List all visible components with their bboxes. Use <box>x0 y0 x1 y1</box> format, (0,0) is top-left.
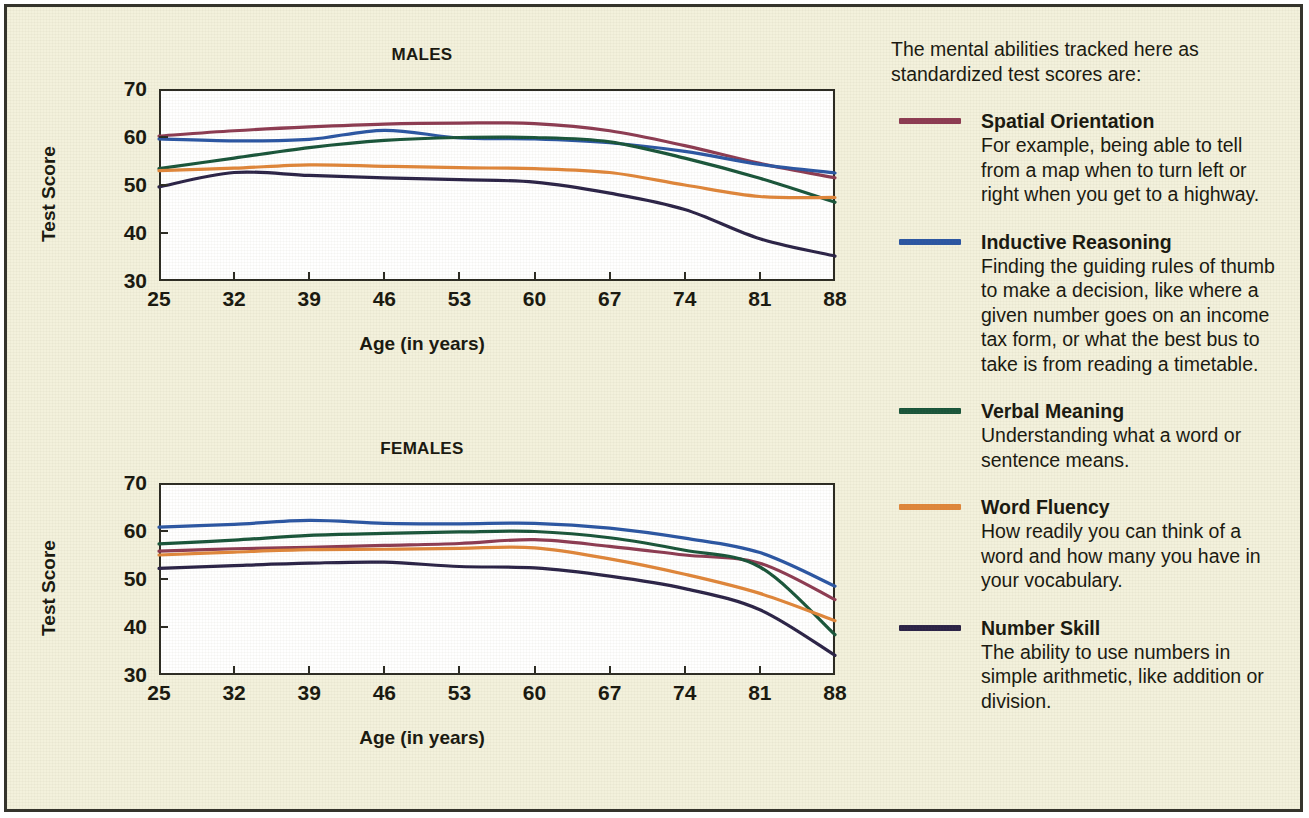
legend-entry-name: Spatial Orientation <box>981 109 1281 133</box>
y-axis-tick-mark <box>159 626 168 628</box>
chart-males-title: MALES <box>7 45 837 65</box>
y-axis-tick-label: 40 <box>101 221 147 245</box>
x-axis-tick-mark <box>233 272 235 281</box>
x-axis-tick-label: 74 <box>655 681 715 705</box>
x-axis-tick-mark <box>684 666 686 675</box>
x-axis-tick-mark <box>759 272 761 281</box>
chart-females-x-axis-label: Age (in years) <box>7 727 837 749</box>
chart-males-x-axis-label: Age (in years) <box>7 333 837 355</box>
legend-entry: Verbal MeaningUnderstanding what a word … <box>891 399 1281 472</box>
legend-color-swatch-icon <box>899 625 961 631</box>
x-axis-tick-mark <box>609 272 611 281</box>
legend-entry-name: Inductive Reasoning <box>981 230 1281 254</box>
legend-entry: Inductive ReasoningFinding the guiding r… <box>891 230 1281 377</box>
y-axis-tick-mark <box>159 578 168 580</box>
series-line-females-4 <box>159 562 835 655</box>
series-line-males-4 <box>159 172 835 256</box>
legend-entry-description: Finding the guiding rules of thumb to ma… <box>981 254 1281 377</box>
x-axis-tick-mark <box>383 272 385 281</box>
x-axis-tick-label: 46 <box>354 287 414 311</box>
x-axis-tick-label: 67 <box>580 681 640 705</box>
legend-color-swatch-icon <box>899 239 961 245</box>
x-axis-tick-label: 53 <box>429 681 489 705</box>
x-axis-tick-label: 39 <box>279 287 339 311</box>
legend-entry: Number SkillThe ability to use numbers i… <box>891 616 1281 714</box>
legend-entry-description: For example, being able to tell from a m… <box>981 133 1281 207</box>
y-axis-tick-label: 60 <box>101 519 147 543</box>
x-axis-tick-label: 67 <box>580 287 640 311</box>
y-axis-tick-mark <box>159 184 168 186</box>
figure-panel: MALES Test Score Age (in years) 30405060… <box>4 4 1303 812</box>
y-axis-tick-mark <box>159 530 168 532</box>
y-axis-tick-label: 50 <box>101 173 147 197</box>
legend-entry-description: How readily you can think of a word and … <box>981 519 1281 593</box>
y-axis-tick-label: 70 <box>101 471 147 495</box>
chart-males-y-axis-label: Test Score <box>38 134 60 254</box>
legend-entry: Spatial OrientationFor example, being ab… <box>891 109 1281 207</box>
x-axis-tick-label: 53 <box>429 287 489 311</box>
y-axis-tick-label: 70 <box>101 77 147 101</box>
x-axis-tick-label: 25 <box>129 287 189 311</box>
x-axis-tick-mark <box>534 666 536 675</box>
x-axis-tick-label: 81 <box>730 681 790 705</box>
y-axis-tick-mark <box>159 232 168 234</box>
x-axis-tick-label: 60 <box>505 681 565 705</box>
legend-entry-description: The ability to use numbers in simple ari… <box>981 640 1281 714</box>
legend-entry: Word FluencyHow readily you can think of… <box>891 495 1281 593</box>
x-axis-tick-label: 88 <box>805 681 865 705</box>
x-axis-tick-label: 74 <box>655 287 715 311</box>
legend-entry-name: Word Fluency <box>981 495 1281 519</box>
x-axis-tick-label: 32 <box>204 681 264 705</box>
chart-females-lines <box>159 483 835 675</box>
legend-color-swatch-icon <box>899 408 961 414</box>
chart-females-plot-area: 304050607025323946536067748188 <box>159 483 835 675</box>
legend-intro-text: The mental abilities tracked here as sta… <box>891 37 1281 87</box>
x-axis-tick-mark <box>609 666 611 675</box>
x-axis-tick-label: 88 <box>805 287 865 311</box>
legend-entry-description: Understanding what a word or sentence me… <box>981 423 1281 472</box>
legend-color-swatch-icon <box>899 118 961 124</box>
x-axis-tick-label: 60 <box>505 287 565 311</box>
x-axis-tick-mark <box>308 666 310 675</box>
x-axis-tick-mark <box>383 666 385 675</box>
x-axis-tick-label: 25 <box>129 681 189 705</box>
y-axis-tick-mark <box>159 136 168 138</box>
x-axis-tick-label: 32 <box>204 287 264 311</box>
chart-females-y-axis-label: Test Score <box>38 528 60 648</box>
legend-entry-name: Number Skill <box>981 616 1281 640</box>
legend-entry-list: Spatial OrientationFor example, being ab… <box>891 109 1281 713</box>
chart-females: FEMALES Test Score Age (in years) 304050… <box>7 427 875 777</box>
x-axis-tick-label: 39 <box>279 681 339 705</box>
x-axis-tick-mark <box>458 666 460 675</box>
y-axis-tick-label: 40 <box>101 615 147 639</box>
x-axis-tick-mark <box>233 666 235 675</box>
x-axis-tick-mark <box>534 272 536 281</box>
x-axis-tick-mark <box>759 666 761 675</box>
y-axis-tick-label: 50 <box>101 567 147 591</box>
chart-females-title: FEMALES <box>7 439 837 459</box>
x-axis-tick-label: 46 <box>354 681 414 705</box>
x-axis-tick-label: 81 <box>730 287 790 311</box>
x-axis-tick-mark <box>458 272 460 281</box>
x-axis-tick-mark <box>684 272 686 281</box>
chart-males-plot-area: 304050607025323946536067748188 <box>159 89 835 281</box>
x-axis-tick-mark <box>308 272 310 281</box>
legend-panel: The mental abilities tracked here as sta… <box>891 37 1281 736</box>
chart-males: MALES Test Score Age (in years) 30405060… <box>7 33 875 383</box>
legend-color-swatch-icon <box>899 504 961 510</box>
chart-males-lines <box>159 89 835 281</box>
legend-entry-name: Verbal Meaning <box>981 399 1281 423</box>
y-axis-tick-label: 60 <box>101 125 147 149</box>
